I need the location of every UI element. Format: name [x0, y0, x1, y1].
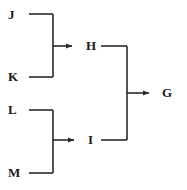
- node-label-i: I: [88, 133, 93, 146]
- node-label-h: H: [86, 39, 96, 52]
- node-label-g: G: [162, 86, 172, 99]
- node-label-k: K: [8, 70, 18, 83]
- node-label-l: L: [8, 103, 17, 116]
- flow-diagram: J K H L M I G: [0, 0, 187, 190]
- flow-diagram-canvas: [0, 0, 187, 190]
- node-label-m: M: [8, 166, 20, 179]
- node-label-j: J: [8, 8, 15, 21]
